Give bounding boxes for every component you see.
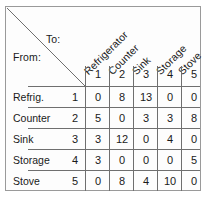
cell-r1c4: 0 <box>158 91 182 103</box>
column-number-1: 1 <box>86 68 110 80</box>
cell-r5c4: 10 <box>158 175 182 187</box>
cell-r5c5: 0 <box>182 175 206 187</box>
cell-r2c2: 0 <box>110 112 134 124</box>
row-number-4: 4 <box>64 154 86 166</box>
cell-r5c1: 0 <box>86 175 110 187</box>
row-header-storage: Storage <box>13 154 50 166</box>
hrule-row-2 <box>28 128 200 129</box>
row-number-1: 1 <box>64 91 86 103</box>
cell-r2c1: 5 <box>86 112 110 124</box>
cell-r2c5: 8 <box>182 112 206 124</box>
column-number-3: 3 <box>134 68 158 80</box>
corner-to-label: To: <box>46 33 60 45</box>
cell-r1c5: 0 <box>182 91 206 103</box>
cell-r3c2: 12 <box>110 133 134 145</box>
cell-r3c4: 4 <box>158 133 182 145</box>
from-to-matrix-table: To: From: Refrigerator Counter Sink Stor… <box>5 6 201 191</box>
row-number-3: 3 <box>64 133 86 145</box>
cell-r4c3: 0 <box>134 154 158 166</box>
cell-r2c3: 3 <box>134 112 158 124</box>
cell-r5c2: 8 <box>110 175 134 187</box>
cell-r4c4: 0 <box>158 154 182 166</box>
cell-r1c1: 0 <box>86 91 110 103</box>
row-header-sink: Sink <box>13 133 33 145</box>
row-header-refrigerator: Refrig. <box>13 91 44 103</box>
cell-r3c5: 0 <box>182 133 206 145</box>
cell-r4c2: 0 <box>110 154 134 166</box>
column-number-4: 4 <box>158 68 182 80</box>
cell-r4c1: 3 <box>86 154 110 166</box>
cell-r3c3: 0 <box>134 133 158 145</box>
cell-r5c3: 4 <box>134 175 158 187</box>
row-number-2: 2 <box>64 112 86 124</box>
hrule-below-numbers <box>28 86 200 87</box>
row-header-counter: Counter <box>13 112 50 124</box>
cell-r1c2: 8 <box>110 91 134 103</box>
row-number-5: 5 <box>64 175 86 187</box>
cell-r3c1: 3 <box>86 133 110 145</box>
cell-r2c4: 3 <box>158 112 182 124</box>
column-number-5: 5 <box>182 68 206 80</box>
cell-r1c3: 13 <box>134 91 158 103</box>
hrule-row-3 <box>28 149 200 150</box>
row-header-stove: Stove <box>13 175 40 187</box>
hrule-row-1 <box>28 107 200 108</box>
hrule-row-4 <box>28 170 200 171</box>
cell-r4c5: 5 <box>182 154 206 166</box>
column-number-2: 2 <box>110 68 134 80</box>
corner-from-label: From: <box>13 51 41 63</box>
